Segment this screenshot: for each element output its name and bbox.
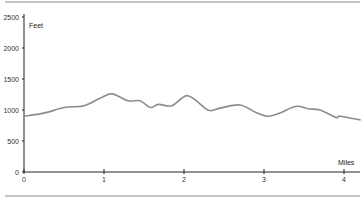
y-tick-label: 1500 <box>3 76 19 83</box>
x-tick-label: 2 <box>182 176 186 183</box>
x-tick-label: 0 <box>22 176 26 183</box>
elevation-line <box>24 94 360 120</box>
elevation-chart: 05001000150020002500 01234 Feet Miles <box>0 0 363 199</box>
y-tick-label: 0 <box>15 169 19 176</box>
y-axis-title: Feet <box>29 22 43 29</box>
x-tick-label: 4 <box>342 176 346 183</box>
x-tick-label: 3 <box>262 176 266 183</box>
x-axis-title: Miles <box>338 159 355 166</box>
x-axis-ticks: 01234 <box>22 169 346 183</box>
y-tick-label: 2500 <box>3 14 19 21</box>
y-tick-label: 2000 <box>3 45 19 52</box>
y-tick-label: 1000 <box>3 107 19 114</box>
y-axis-ticks: 05001000150020002500 <box>3 14 24 176</box>
x-tick-label: 1 <box>102 176 106 183</box>
y-tick-label: 500 <box>7 138 19 145</box>
